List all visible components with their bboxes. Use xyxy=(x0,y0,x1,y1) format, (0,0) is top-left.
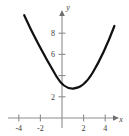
x-axis-label: x xyxy=(118,115,123,124)
y-axis-arrow-icon xyxy=(59,10,65,16)
x-tick-label--2: -2 xyxy=(37,124,44,133)
y-tick-label-6: 6 xyxy=(51,50,55,59)
y-tick-label-8: 8 xyxy=(51,29,55,38)
parabola-curve xyxy=(24,15,114,88)
y-axis-label: y xyxy=(65,3,70,12)
parabola-plot: -4 -2 2 4 2 6 8 x y xyxy=(0,0,129,136)
x-tick-label--4: -4 xyxy=(15,124,22,133)
x-axis-arrow-icon xyxy=(113,115,119,121)
x-tick-label-4: 4 xyxy=(103,124,107,133)
y-tick-label-2: 2 xyxy=(51,93,55,102)
x-tick-label-2: 2 xyxy=(82,124,86,133)
graph-figure: -4 -2 2 4 2 6 8 x y xyxy=(0,0,129,136)
